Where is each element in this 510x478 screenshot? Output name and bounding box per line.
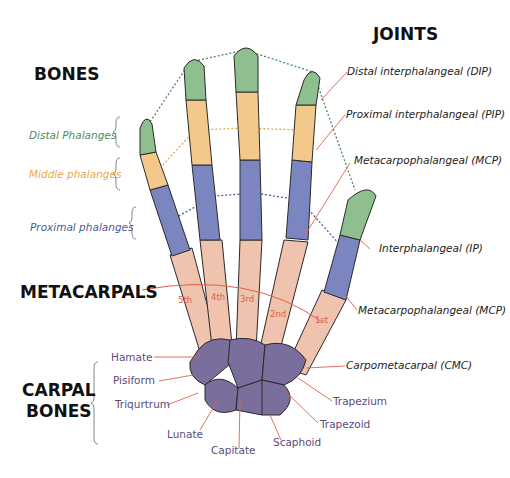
label-pip-joint: Proximal interphalangeal (PIP) [346, 108, 505, 120]
hand-anatomy-diagram: BONES JOINTS METACARPALS CARPAL BONES Di… [0, 0, 510, 478]
heading-carpal: CARPAL [22, 380, 96, 400]
metacarpal-number-2nd: 2nd [270, 309, 286, 319]
label-cmc-joint: Carpometacarpal (CMC) [346, 359, 472, 371]
heading-joints: JOINTS [373, 24, 438, 44]
metacarpal-2nd [260, 240, 308, 350]
label-triquetrum: Triqurtrum [115, 398, 170, 410]
label-pisiform: Pisiform [113, 374, 155, 386]
heading-metacarpals: METACARPALS [20, 282, 158, 302]
label-dip-joint: Distal interphalangeal (DIP) [347, 65, 492, 77]
label-trapezoid: Trapezoid [320, 418, 370, 430]
label-scaphoid: Scaphoid [273, 436, 321, 448]
label-mcp-joint: Metacarpophalangeal (MCP) [354, 154, 502, 166]
pip-joint-arc [160, 128, 300, 168]
middle-phalanges-group [140, 92, 316, 190]
label-hamate: Hamate [111, 351, 153, 363]
label-proximal-phalanges: Proximal phalanges [30, 221, 133, 233]
label-ip-joint: Interphalangeal (IP) [379, 242, 483, 254]
metacarpal-number-5th: 5th [178, 295, 192, 305]
braces [91, 117, 136, 444]
heading-carpal-bones: BONES [26, 401, 92, 421]
carpal-bones-group [190, 338, 306, 415]
metacarpal-number-1st: 1st [315, 315, 328, 325]
label-thumb-mcp-joint: Metacarpophalangeal (MCP) [358, 304, 506, 316]
metacarpal-number-4th: 4th [211, 292, 225, 302]
label-middle-phalanges: Middle phalanges [29, 168, 121, 180]
metacarpal-number-3rd: 3rd [240, 294, 254, 304]
label-distal-phalanges: Distal Phalanges [29, 129, 116, 141]
label-capitate: Capitate [211, 444, 255, 456]
label-trapezium: Trapezium [333, 395, 387, 407]
label-lunate: Lunate [167, 428, 203, 440]
heading-bones: BONES [34, 64, 100, 84]
